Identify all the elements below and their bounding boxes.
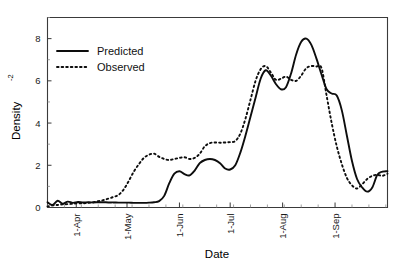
y-tick-label: 0 (35, 202, 40, 213)
y-tick-label: 6 (35, 75, 40, 86)
y-axis: 02468 (35, 18, 51, 214)
y-tick-label: 2 (35, 160, 40, 171)
y-tick-label: 4 (35, 118, 40, 129)
x-tick-label: 1-May (122, 213, 133, 240)
legend-label-observed: Observed (97, 61, 145, 73)
y-axis-title-text: Density (10, 101, 22, 140)
x-tick-label: 1-Jul (225, 214, 236, 235)
x-axis: 1-Apr1-May1-Jun1-Jul1-Aug1-Sep (48, 203, 386, 240)
series-line-observed (48, 66, 388, 207)
x-tick-label: 1-Jun (174, 214, 185, 238)
x-tick-label: 1-Apr (71, 214, 82, 237)
chart-figure: 02468 1-Apr1-May1-Jun1-Jul1-Aug1-Sep Pre… (0, 0, 401, 268)
legend: Predicted Observed (57, 45, 145, 73)
y-axis-title: Density -2 (6, 74, 22, 140)
y-tick-label: 8 (35, 33, 40, 44)
density-line-chart: 02468 1-Apr1-May1-Jun1-Jul1-Aug1-Sep Pre… (0, 0, 401, 268)
legend-label-predicted: Predicted (97, 45, 143, 57)
x-tick-label: 1-Sep (330, 214, 341, 239)
y-axis-title-superscript: -2 (6, 74, 15, 81)
x-tick-label: 1-Aug (277, 214, 288, 239)
x-axis-title: Date (205, 248, 229, 260)
